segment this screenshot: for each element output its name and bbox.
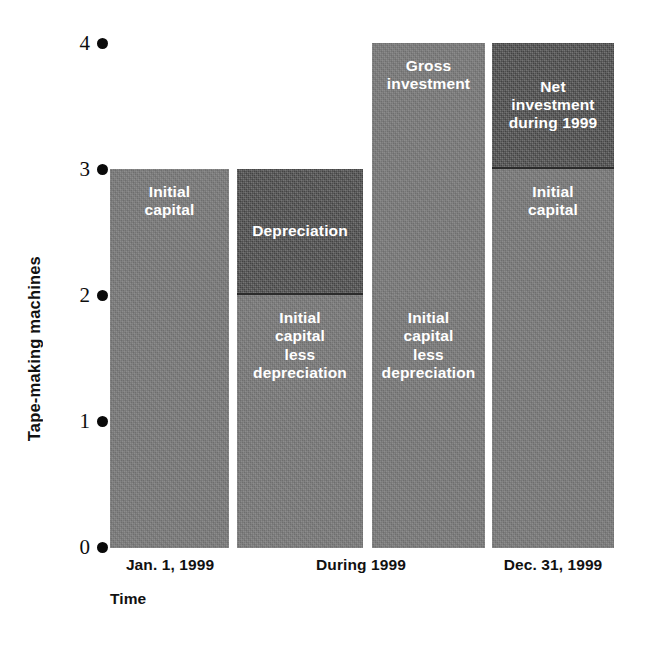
bar-segment: Depreciation — [237, 169, 363, 295]
bar-segment-label: Depreciation — [249, 222, 351, 240]
bar-initial: Initial capital — [110, 169, 229, 547]
x-axis-title: Time — [110, 590, 146, 608]
bar-segment-label: Initial capital — [141, 183, 197, 219]
capital-accumulation-bar-chart: Tape-making machines 4 3 2 1 0 Initial c… — [0, 0, 646, 655]
x-label-jan-1-1999: Jan. 1, 1999 — [110, 556, 230, 574]
bar-segment: Initial capital less depreciation — [372, 295, 485, 547]
bar-net-investment: Initial capitalNet investment during 199… — [492, 43, 614, 548]
bar-depreciation: Initial capital less depreciationDepreci… — [237, 169, 363, 547]
bar-segment: Gross investment — [372, 43, 485, 295]
bar-segment: Initial capital less depreciation — [237, 295, 363, 547]
bar-segment-label: Initial capital less depreciation — [379, 309, 479, 382]
bar-segment-label: Gross investment — [384, 57, 473, 93]
bar-segment-label: Initial capital — [525, 183, 581, 219]
bar-segment-label: Net investment during 1999 — [506, 78, 601, 132]
bar-segment: Net investment during 1999 — [492, 43, 614, 169]
bar-gross-investment: Initial capital less depreciationGross i… — [372, 43, 485, 548]
bar-segment: Initial capital — [110, 169, 229, 547]
x-label-during-1999: During 1999 — [237, 556, 485, 574]
x-label-dec-31-1999: Dec. 31, 1999 — [492, 556, 614, 574]
bar-segment: Initial capital — [492, 169, 614, 547]
bar-segment-label: Initial capital less depreciation — [250, 309, 350, 382]
